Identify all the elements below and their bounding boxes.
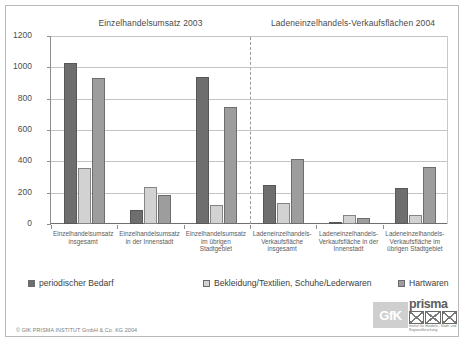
gridline [51,67,447,68]
bar [357,218,370,224]
chart-legend: periodischer BedarfBekleidung/Textilien,… [28,278,448,292]
y-tick-label: 600 [0,124,32,134]
bar [64,63,77,224]
bar [92,78,105,224]
prisma-pattern-icon [409,311,457,324]
bar-group [329,37,370,224]
y-tick-mark [47,36,51,37]
category-label: Einzelhandelsumsatz insgesamt [52,230,114,245]
y-tick-label: 1000 [0,61,32,71]
y-tick-mark [47,161,51,162]
x-tick-mark [51,225,52,229]
bar [395,188,408,224]
legend-item[interactable]: Hartwaren [398,278,449,288]
legend-label: Bekleidung/Textilien, Schuhe/Lederwaren [214,278,372,288]
bar [144,187,157,224]
panel-title-left: Einzelhandelsumsatz 2003 [58,18,243,28]
y-tick-label: 400 [0,155,32,165]
y-tick-label: 200 [0,187,32,197]
category-label: Ladeneinzelhandels-Verkaufsfläche insges… [251,230,313,253]
legend-item[interactable]: periodischer Bedarf [28,278,114,288]
bar [158,195,171,224]
bar-group [64,37,105,224]
gridline [51,99,447,100]
bar [277,203,290,224]
bar [263,185,276,224]
bar-group [130,37,171,224]
y-tick-mark [47,99,51,100]
gridline [51,161,447,162]
bar [130,210,143,224]
legend-label: Hartwaren [409,278,449,288]
x-tick-mark [117,225,118,229]
legend-swatch-icon [203,280,210,287]
prisma-tagline: Institut für Handels-, Stadt- und Region… [409,325,457,333]
y-tick-mark [47,130,51,131]
panel-title-right: Ladeneinzelhandels-Verkaufsflächen 2004 [254,18,452,28]
bar [196,77,209,224]
y-tick-mark [47,193,51,194]
category-label: Einzelhandelsumsatz im übrigen Stadtgebi… [185,230,247,253]
y-tick-label: 1200 [0,30,32,40]
bar [343,215,356,224]
x-tick-mark [184,225,185,229]
x-axis [51,223,447,224]
bar [329,222,342,224]
x-tick-mark [316,225,317,229]
legend-swatch-icon [28,280,35,287]
gfk-logo-box: GfK [373,302,408,328]
legend-swatch-icon [398,280,405,287]
bar [423,167,436,224]
plot-area [50,36,448,224]
category-label: Ladeneinzelhandels-Verkaufsfläche in der… [317,230,379,253]
x-tick-mark [250,225,251,229]
gfk-logo-text: GfK [379,308,401,323]
bar [409,215,422,224]
bar [291,159,304,224]
gridline [51,130,447,131]
legend-label: periodischer Bedarf [39,278,114,288]
bar-group [263,37,304,224]
category-label: Einzelhandelsumsatz in der Innenstadt [118,230,180,245]
prisma-logo: prisma Institut für Handels-, Stadt- und… [409,298,457,329]
bar [224,107,237,224]
bar-group [196,37,237,224]
gridline [51,193,447,194]
gridline [51,36,447,37]
bar [210,205,223,224]
gfk-prisma-logo: GfK prisma Institut für Handels-, Stadt-… [373,298,457,329]
y-tick-mark [47,67,51,68]
y-tick-label: 800 [0,93,32,103]
bar [78,168,91,224]
copyright-text: © GfK PRISMA INSTITUT GmbH & Co. KG 2004 [16,327,137,333]
legend-item[interactable]: Bekleidung/Textilien, Schuhe/Lederwaren [203,278,372,288]
chart-frame: Einzelhandelsumsatz 2003 Ladeneinzelhand… [5,5,459,337]
category-label: Ladeneinzelhandels-Verkaufsfläche im übr… [384,230,446,253]
y-tick-label: 0 [0,218,32,228]
x-tick-mark [383,225,384,229]
bar-group [395,37,436,224]
prisma-logo-text: prisma [409,298,457,310]
